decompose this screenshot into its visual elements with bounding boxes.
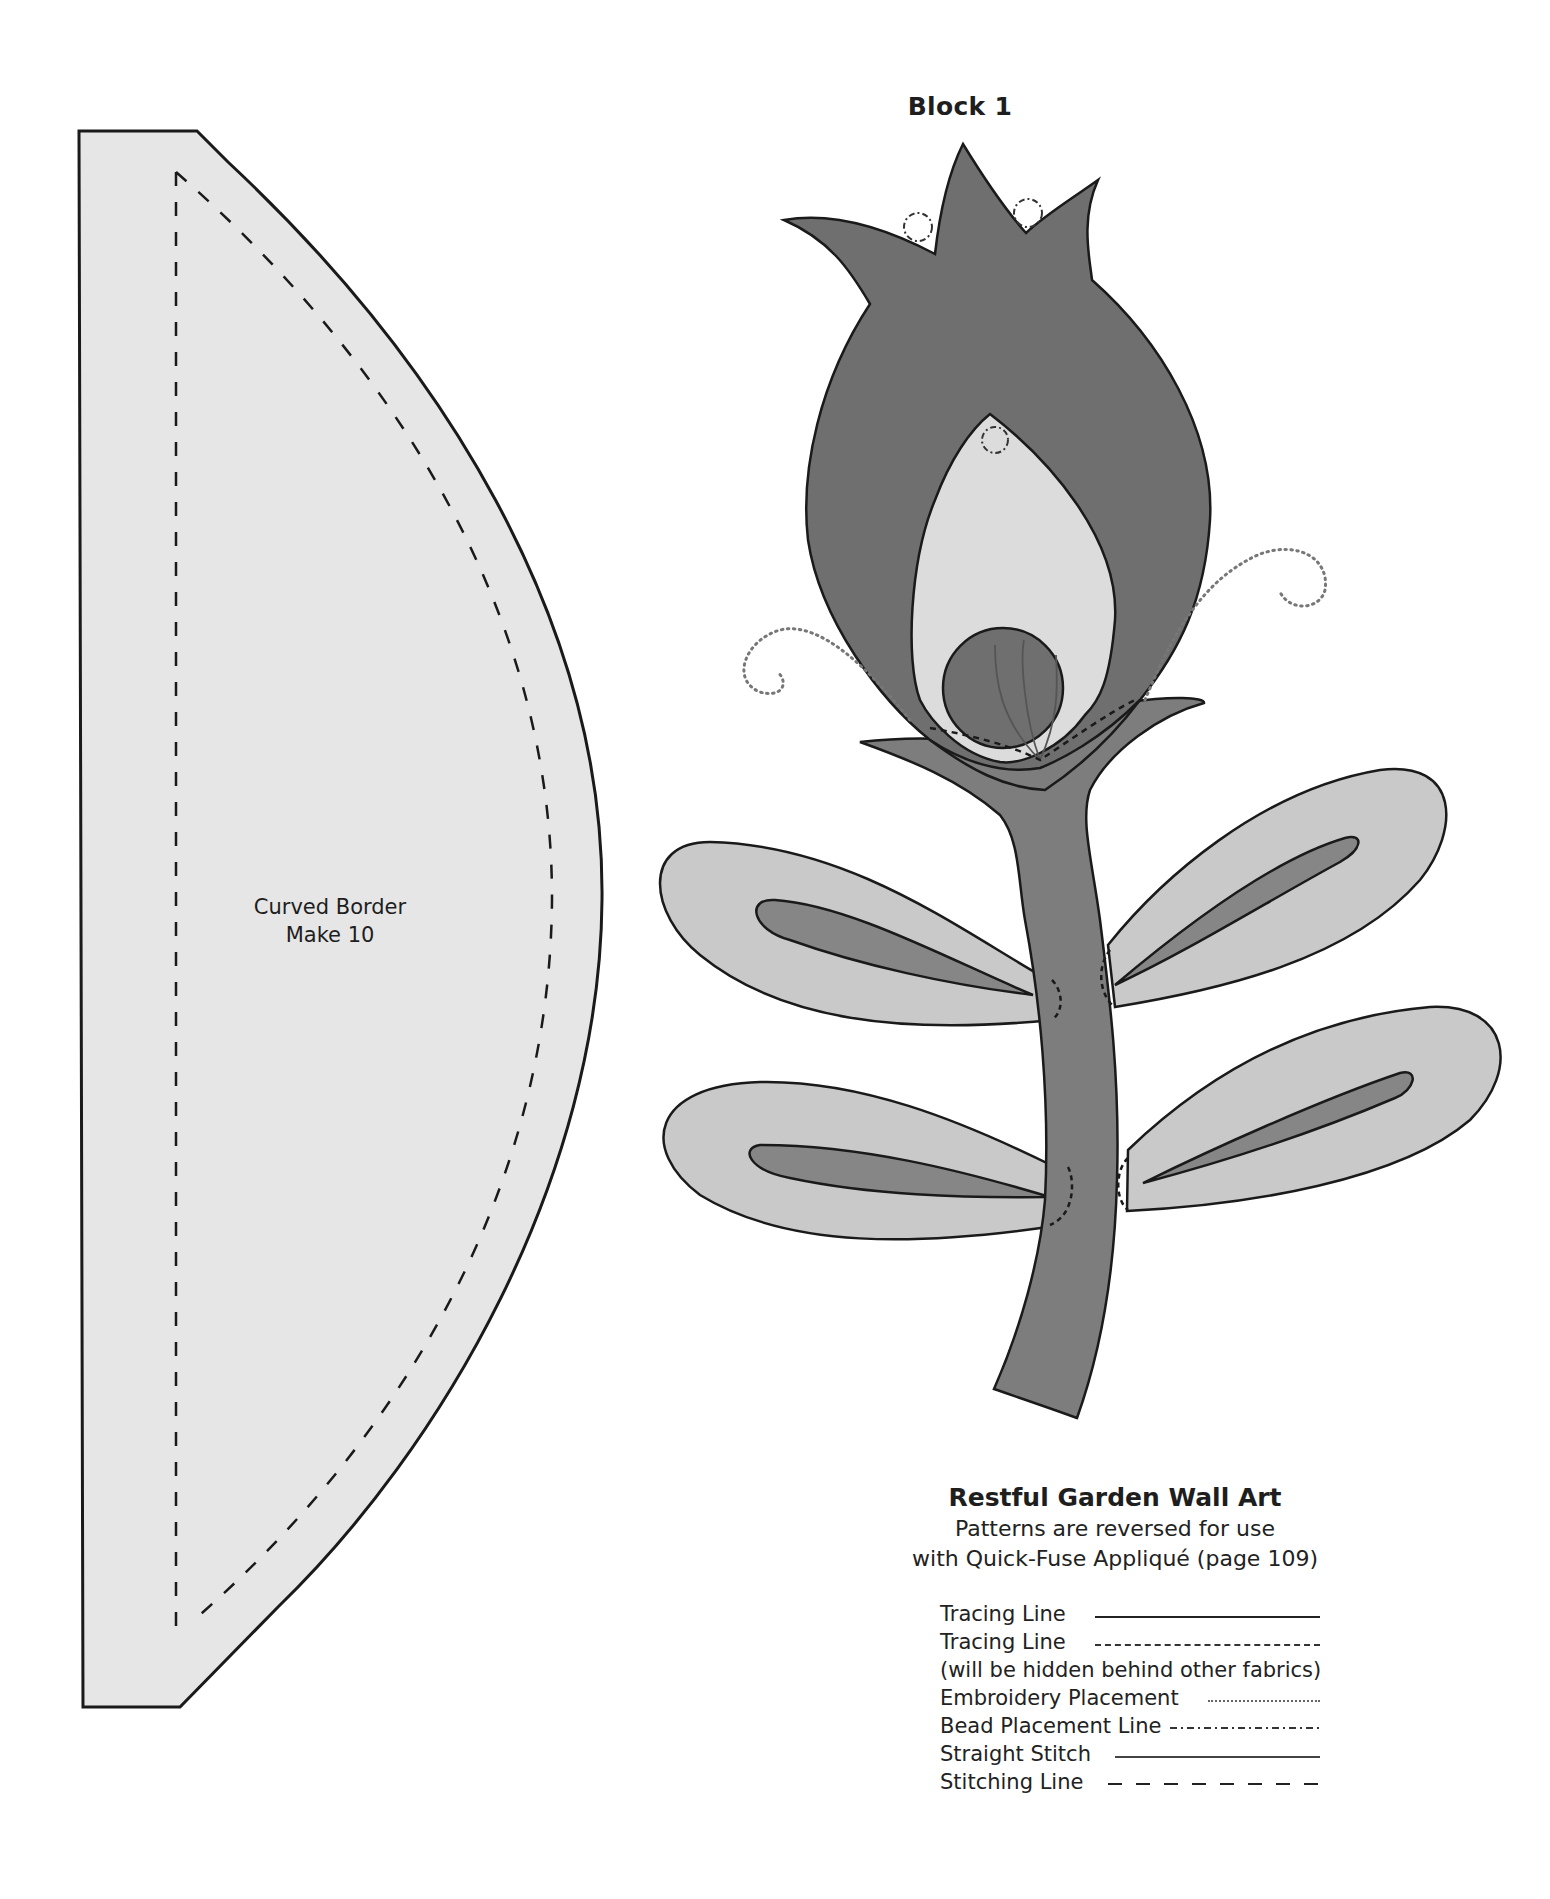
bead-circle-2 xyxy=(1014,199,1042,227)
fine-dashed-line-sample xyxy=(1095,1644,1320,1646)
pattern-info: Restful Garden Wall Art Patterns are rev… xyxy=(860,1482,1370,1574)
legend-label: Straight Stitch xyxy=(940,1740,1091,1768)
pattern-subtitle-2: with Quick-Fuse Appliqué (page 109) xyxy=(860,1544,1370,1574)
legend-label: Bead Placement Line xyxy=(940,1712,1161,1740)
bead-circle-1 xyxy=(904,213,932,241)
legend-item-note: (will be hidden behind other fabrics) xyxy=(940,1656,1340,1684)
legend-label: Stitching Line xyxy=(940,1768,1083,1796)
bud-center-ball xyxy=(943,628,1063,748)
legend-item-tracing-line: Tracing Line xyxy=(940,1600,1340,1628)
long-dashed-line-sample xyxy=(1108,1783,1320,1785)
legend-label: Embroidery Placement xyxy=(940,1684,1179,1712)
legend-label: Tracing Line xyxy=(940,1600,1066,1628)
stem xyxy=(860,698,1204,1418)
stem-shape xyxy=(860,698,1204,1418)
block-title: Block 1 xyxy=(860,92,1060,121)
legend-item-stitching-line: Stitching Line xyxy=(940,1768,1340,1796)
solid-line-sample xyxy=(1095,1616,1320,1618)
curved-border-quantity: Make 10 xyxy=(210,921,450,949)
line-legend: Tracing Line Tracing Line (will be hidde… xyxy=(940,1600,1340,1796)
legend-item-straight-stitch: Straight Stitch xyxy=(940,1740,1340,1768)
curved-border-name: Curved Border xyxy=(210,893,450,921)
legend-item-hidden-tracing-line: Tracing Line xyxy=(940,1628,1340,1656)
dash-dot-line-sample xyxy=(1170,1727,1320,1729)
pattern-title: Restful Garden Wall Art xyxy=(860,1482,1370,1514)
curved-border-label: Curved Border Make 10 xyxy=(210,893,450,949)
dotted-line-sample xyxy=(1208,1700,1320,1702)
solid-stitch-sample xyxy=(1115,1756,1320,1758)
legend-note: (will be hidden behind other fabrics) xyxy=(940,1656,1321,1684)
legend-label: Tracing Line xyxy=(940,1628,1066,1656)
pattern-subtitle-1: Patterns are reversed for use xyxy=(860,1514,1370,1544)
legend-item-bead-placement: Bead Placement Line xyxy=(940,1712,1340,1740)
legend-item-embroidery: Embroidery Placement xyxy=(940,1684,1340,1712)
